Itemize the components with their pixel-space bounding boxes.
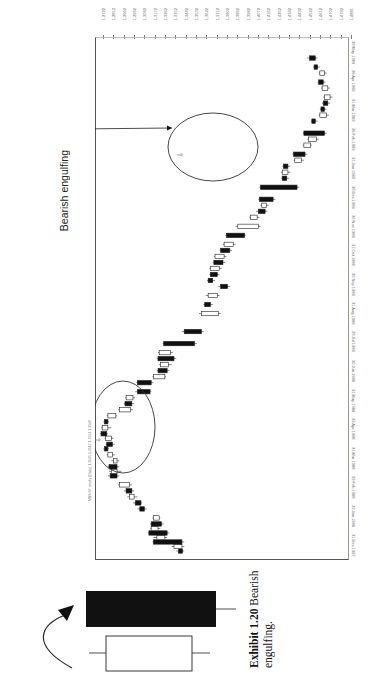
- candle: [163, 341, 197, 345]
- date-tick: 31 Mar 1989: [351, 99, 369, 125]
- date-tick: 31 May 1988: [351, 389, 369, 416]
- candle: [294, 158, 304, 162]
- candle: [249, 215, 259, 219]
- candle: [118, 483, 132, 487]
- price-tick-label: 1.4522: [308, 8, 313, 20]
- candle: [319, 113, 329, 117]
- date-tick-label: 31 Aug 1988: [351, 302, 356, 324]
- candle: [127, 495, 137, 499]
- date-tick: 30 Sep 1988: [351, 273, 369, 300]
- price-tick: 1.3082: [142, 8, 148, 34]
- candle: [204, 302, 213, 306]
- price-tick: 1.2992: [132, 8, 138, 34]
- date-tick: 29 Feb 1988: [351, 476, 369, 502]
- price-tick-label: 1.4342: [287, 8, 292, 20]
- price-tick: 1.3352: [173, 8, 179, 34]
- date-tick: 30 Dec 1988: [351, 186, 369, 213]
- candle: [281, 170, 290, 174]
- candlestick-chart: ⇨⇨: [95, 37, 349, 560]
- candle: [259, 185, 299, 189]
- date-tick: 29 Jan 1988: [351, 505, 369, 531]
- candle: [101, 426, 111, 430]
- bearish-engulfing-annotation-label: Bearish engulfing: [58, 150, 70, 231]
- trend-arrow-icon: [43, 615, 72, 668]
- candle: [133, 501, 142, 505]
- date-tick: 31 Mar 1988: [351, 447, 369, 473]
- exhibit-number: Exhibit 1.20: [248, 609, 260, 668]
- date-tick-label: 29 Jan 1988: [351, 505, 356, 527]
- candle: [303, 131, 327, 135]
- price-tick: 1.3892: [235, 8, 241, 34]
- candle: [124, 402, 134, 406]
- candle: [199, 311, 221, 315]
- candle: [223, 242, 236, 246]
- candle: [152, 516, 160, 520]
- price-tick: 1.3802: [225, 8, 231, 34]
- price-tick: 1.4342: [287, 8, 293, 34]
- candle: [103, 420, 109, 424]
- candle: [100, 432, 108, 436]
- date-tick-label: 30 Sep 1988: [351, 273, 356, 296]
- candle: [159, 362, 172, 366]
- date-tick-label: 31 Mar 1989: [351, 99, 356, 121]
- candle: [261, 203, 269, 207]
- date-tick-label: 31 Dec 1987: [351, 534, 356, 557]
- price-tick: 1.4522: [308, 8, 314, 34]
- candle: [125, 395, 135, 399]
- candle: [292, 152, 307, 156]
- candle: [311, 119, 318, 123]
- candle: [321, 86, 330, 90]
- black-candle: [86, 591, 236, 627]
- candle: [318, 80, 326, 84]
- candle: [313, 65, 320, 69]
- arrowhead-icon: [58, 605, 74, 621]
- candle: [107, 453, 115, 457]
- candle: [322, 101, 330, 105]
- date-tick: 30 Nov 1988: [351, 215, 369, 242]
- arrow-to-second-top-head-icon: [167, 126, 172, 131]
- candle: [152, 374, 166, 378]
- price-tick: 1.3262: [163, 8, 169, 34]
- price-tick: 1.4792: [339, 8, 345, 34]
- candle: [107, 414, 117, 418]
- price-tick-label: 1.2902: [122, 8, 127, 20]
- date-axis: 31 Dec 198729 Jan 198829 Feb 198831 Mar …: [349, 37, 370, 560]
- price-tick: 1.3982: [246, 8, 252, 34]
- candle: [157, 356, 176, 360]
- price-tick-label: 1.4072: [256, 8, 261, 20]
- candle: [172, 544, 185, 548]
- date-tick-label: 30 Nov 1988: [351, 215, 356, 238]
- date-tick: 29 Apr 1988: [351, 418, 369, 444]
- price-tick: 1.2812: [111, 8, 117, 34]
- candle: [282, 164, 290, 168]
- candle: [209, 272, 219, 276]
- date-tick: 29 Jul 1988: [351, 331, 369, 356]
- price-tick: 1.2902: [122, 8, 128, 34]
- price-tick: 1.3622: [204, 8, 210, 34]
- price-tick-label: 1.4792: [339, 8, 344, 20]
- date-tick: 30 May 1989: [351, 41, 369, 68]
- candle: [104, 436, 113, 440]
- candle: [124, 489, 134, 493]
- date-tick-label: 28 Feb 1989: [351, 128, 356, 150]
- chart-header-text: MBS ST cmdty (Daily) 1.3545 1.3517 1.355…: [88, 420, 92, 501]
- candle: [206, 293, 220, 297]
- date-tick: 31 Dec 1987: [351, 534, 369, 561]
- price-tick-label: 1.4702: [328, 8, 333, 20]
- date-tick-label: 31 May 1988: [351, 389, 356, 412]
- candle: [150, 526, 160, 530]
- price-tick: 1.4252: [277, 8, 283, 34]
- candle: [138, 507, 147, 511]
- candle: [256, 209, 267, 213]
- date-tick-label: 29 Apr 1988: [351, 418, 356, 440]
- arrow-to-second-top: [95, 128, 172, 129]
- price-tick: 1.4612: [318, 8, 324, 34]
- candle: [103, 447, 109, 451]
- candle: [136, 380, 153, 384]
- price-tick-label: 1.3082: [142, 8, 147, 20]
- candle: [281, 176, 289, 180]
- price-tick-label: 1.4252: [277, 8, 282, 20]
- candle: [218, 284, 229, 288]
- price-tick: 1.3172: [153, 8, 159, 34]
- candle: [225, 233, 246, 237]
